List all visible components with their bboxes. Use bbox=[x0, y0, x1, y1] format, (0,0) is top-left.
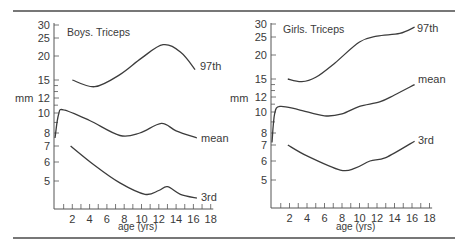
label-mean: mean bbox=[418, 73, 446, 85]
y-tick-label: 8 bbox=[261, 127, 267, 139]
x-tick-label: 18 bbox=[423, 212, 435, 224]
curve-97th bbox=[288, 27, 415, 82]
x-tick-label: 8 bbox=[339, 212, 345, 224]
label-3rd: 3rd bbox=[201, 191, 217, 203]
y-tick-label: 25 bbox=[38, 32, 50, 44]
axes: 567810121520253024681012141618 bbox=[38, 19, 217, 225]
curve-3rd bbox=[288, 141, 415, 171]
axis-lines bbox=[271, 23, 432, 208]
y-tick-label: 25 bbox=[255, 31, 267, 43]
x-tick-label: 4 bbox=[87, 213, 93, 225]
x-tick-label: 10 bbox=[353, 212, 365, 224]
axes: 567810121520253024681012141618 bbox=[255, 18, 436, 224]
percentile-curves bbox=[55, 45, 197, 199]
axis-lines bbox=[54, 23, 213, 209]
curve-97th bbox=[72, 45, 195, 87]
x-tick-label: 14 bbox=[170, 213, 182, 225]
x-tick-label: 2 bbox=[286, 212, 292, 224]
label-97th: 97th bbox=[417, 22, 438, 34]
x-tick-label: 8 bbox=[121, 213, 127, 225]
x-tick-label: 16 bbox=[187, 213, 199, 225]
boys-triceps-chart: Boys. Triceps mm age (yrs) 5678101215202… bbox=[15, 19, 229, 232]
y-tick-label: 6 bbox=[44, 156, 50, 168]
y-tick-label: 12 bbox=[38, 92, 50, 104]
y-tick-label: 10 bbox=[38, 107, 50, 119]
curve-3rd bbox=[71, 146, 197, 198]
y-tick-label: 30 bbox=[255, 18, 267, 30]
y-tick-label: 8 bbox=[44, 127, 50, 139]
x-tick-label: 6 bbox=[104, 213, 110, 225]
x-tick-label: 18 bbox=[205, 213, 217, 225]
x-tick-label: 4 bbox=[304, 212, 310, 224]
x-tick-label: 14 bbox=[388, 212, 400, 224]
y-tick-label: 15 bbox=[255, 73, 267, 85]
triceps-skinfold-charts: Boys. Triceps mm age (yrs) 5678101215202… bbox=[0, 0, 463, 247]
curve-mean bbox=[272, 85, 415, 143]
x-tick-label: 12 bbox=[371, 212, 383, 224]
chart-title: Girls. Triceps bbox=[283, 23, 344, 35]
label-3rd: 3rd bbox=[418, 134, 434, 146]
curve-mean bbox=[55, 109, 197, 138]
y-tick-label: 20 bbox=[38, 50, 50, 62]
girls-triceps-chart: Girls. Triceps mm age (yrs) 567810121520… bbox=[230, 18, 446, 232]
y-tick-label: 20 bbox=[255, 49, 267, 61]
label-mean: mean bbox=[201, 132, 229, 144]
y-tick-label: 15 bbox=[38, 74, 50, 86]
y-tick-label: 5 bbox=[44, 175, 50, 187]
y-axis-label: mm bbox=[15, 92, 33, 104]
chart-title: Boys. Triceps bbox=[67, 26, 130, 38]
y-tick-label: 6 bbox=[261, 155, 267, 167]
x-tick-label: 16 bbox=[406, 212, 418, 224]
x-tick-label: 12 bbox=[153, 213, 165, 225]
y-tick-label: 12 bbox=[255, 91, 267, 103]
y-tick-label: 30 bbox=[38, 19, 50, 31]
y-tick-label: 7 bbox=[261, 139, 267, 151]
y-tick-label: 10 bbox=[255, 106, 267, 118]
y-axis-label: mm bbox=[230, 92, 248, 104]
label-97th: 97th bbox=[200, 60, 221, 72]
y-tick-label: 5 bbox=[261, 174, 267, 186]
x-tick-label: 6 bbox=[321, 212, 327, 224]
x-tick-label: 10 bbox=[135, 213, 147, 225]
percentile-curves bbox=[272, 27, 415, 171]
y-tick-label: 7 bbox=[44, 140, 50, 152]
x-tick-label: 2 bbox=[69, 213, 75, 225]
